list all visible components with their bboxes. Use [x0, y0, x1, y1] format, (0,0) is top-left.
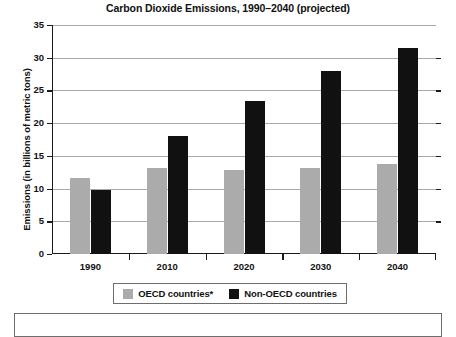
- bar-1990-non-oecd: [91, 190, 111, 253]
- bar-2030-non-oecd: [321, 71, 341, 254]
- y-axis-tick-label: 5: [20, 216, 44, 226]
- gridline: [53, 90, 436, 91]
- legend-label-oecd: OECD countries*: [138, 288, 213, 299]
- y-axis-tick-label: 25: [20, 85, 44, 95]
- y-axis-tick-right: [436, 189, 441, 190]
- plot-area: 05101520253035 19902010202020302040: [52, 25, 436, 254]
- bar-2010-oecd: [147, 168, 167, 253]
- bar-2030-oecd: [300, 168, 320, 254]
- page-title: Carbon Dioxide Emissions, 1990–2040 (pro…: [0, 2, 456, 14]
- y-axis-tick-label: 0: [20, 249, 44, 259]
- legend-swatch-icon-oecd: [123, 289, 133, 299]
- bar-2040-non-oecd: [398, 48, 418, 253]
- y-axis-tick-label: 35: [20, 20, 44, 30]
- legend-item-non-oecd: Non-OECD countries: [229, 288, 337, 299]
- y-axis-tick-right: [436, 90, 441, 91]
- gridline: [53, 58, 436, 59]
- y-axis-tick: [47, 254, 52, 255]
- y-axis-tick-label: 15: [20, 151, 44, 161]
- y-axis-tick: [47, 189, 52, 190]
- y-axis-tick-right: [436, 123, 441, 124]
- y-axis-tick-right: [436, 156, 441, 157]
- y-axis-tick-label: 20: [20, 118, 44, 128]
- bar-2010-non-oecd: [168, 136, 188, 254]
- x-axis-tick-end: [435, 254, 436, 260]
- x-axis-tick: [359, 254, 360, 260]
- y-axis-line: [52, 25, 53, 254]
- y-axis-tick: [47, 25, 52, 26]
- x-axis-tick-label: 2010: [144, 261, 190, 272]
- x-axis-tick-label: 2030: [298, 261, 344, 272]
- x-axis-tick-label: 1990: [67, 261, 113, 272]
- y-axis-tick-label: 10: [20, 184, 44, 194]
- y-axis-tick: [47, 58, 52, 59]
- y-axis-tick-right: [436, 58, 441, 59]
- y-axis-tick: [47, 156, 52, 157]
- y-axis-title: Emissions (in billions of metric tons): [21, 40, 32, 260]
- x-axis-tick-label: 2040: [375, 261, 421, 272]
- bar-2020-non-oecd: [245, 101, 265, 253]
- gridline: [53, 25, 436, 26]
- x-axis-tick: [282, 254, 283, 260]
- legend-swatch-icon-non-oecd: [229, 289, 239, 299]
- legend-item-oecd: OECD countries*: [123, 288, 213, 299]
- bar-2020-oecd: [224, 170, 244, 254]
- x-axis-tick: [129, 254, 130, 260]
- legend: OECD countries* Non-OECD countries: [113, 283, 347, 304]
- footnote-box: [14, 313, 442, 337]
- y-axis-tick: [47, 221, 52, 222]
- y-axis-tick-right: [436, 221, 441, 222]
- x-axis-tick: [206, 254, 207, 260]
- bar-2040-oecd: [377, 164, 397, 254]
- y-axis-tick: [47, 90, 52, 91]
- legend-label-non-oecd: Non-OECD countries: [244, 288, 337, 299]
- y-axis-tick: [47, 123, 52, 124]
- y-axis-tick-label: 30: [20, 53, 44, 63]
- x-axis-tick-label: 2020: [221, 261, 267, 272]
- bar-1990-oecd: [70, 178, 90, 253]
